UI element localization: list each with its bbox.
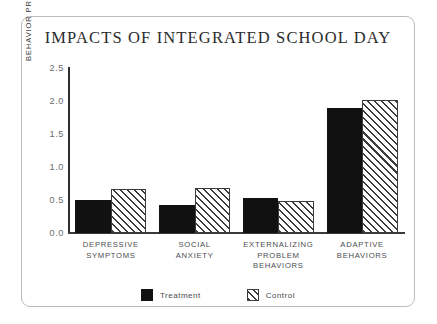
- plot-area: [69, 68, 404, 233]
- y-axis-tick-label: 2.5: [34, 63, 64, 73]
- y-axis-tick-label: 2.0: [34, 96, 64, 106]
- bar-treatment-2: [243, 198, 279, 233]
- legend-entry-treatment[interactable]: Treatment: [141, 289, 201, 301]
- y-axis-tick-label: 0.5: [34, 195, 64, 205]
- legend-entry-control[interactable]: Control: [247, 289, 295, 301]
- legend-label: Treatment: [160, 291, 201, 300]
- x-axis-category-label: SOCIALANXIETY: [153, 240, 237, 261]
- y-axis-tick-label: 1.0: [34, 162, 64, 172]
- bar-control-3: [362, 100, 398, 233]
- chart-title: IMPACTS OF INTEGRATED SCHOOL DAY: [21, 28, 415, 48]
- bar-treatment-3: [327, 108, 363, 233]
- legend-swatch-hatch-icon: [247, 289, 259, 301]
- bar-treatment-0: [75, 200, 111, 233]
- legend-label: Control: [266, 291, 295, 300]
- x-axis-category-label: DEPRESSIVESYMPTOMS: [69, 240, 153, 261]
- legend-swatch-solid-icon: [141, 289, 153, 301]
- y-axis-tick-label: 0.0: [34, 228, 64, 238]
- x-axis-category-label: EXTERNALIZINGPROBLEMBEHAVIORS: [237, 240, 321, 272]
- y-axis-tick-labels: 2.52.01.51.00.50.0: [30, 0, 64, 324]
- chart-figure: IMPACTS OF INTEGRATED SCHOOL DAY BEHAVIO…: [0, 0, 437, 324]
- y-axis-tick-label: 1.5: [34, 129, 64, 139]
- chart-legend: TreatmentControl: [21, 289, 415, 301]
- bar-treatment-1: [159, 205, 195, 233]
- bar-control-1: [195, 188, 231, 233]
- bar-control-0: [111, 189, 147, 233]
- bar-control-2: [278, 201, 314, 233]
- x-axis-category-label: ADAPTIVEBEHAVIORS: [320, 240, 404, 261]
- x-axis-category-labels: DEPRESSIVESYMPTOMSSOCIALANXIETYEXTERNALI…: [69, 240, 404, 286]
